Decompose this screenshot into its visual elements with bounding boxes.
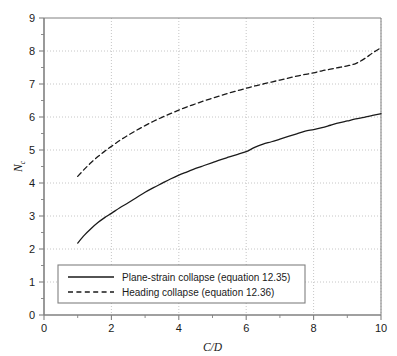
xtick-label: 0: [41, 322, 47, 334]
ytick-label: 6: [29, 111, 35, 123]
ytick-label: 1: [29, 276, 35, 288]
chart-legend: Plane-strain collapse (equation 12.35)He…: [58, 265, 305, 303]
xaxis-title: C/D: [203, 341, 223, 353]
ytick-label: 8: [29, 45, 35, 57]
ytick-label: 9: [29, 12, 35, 24]
ytick-label: 5: [29, 144, 35, 156]
xtick-label: 4: [176, 322, 182, 334]
chart-figure: 02468100123456789 C/DNc Plane-strain col…: [0, 0, 397, 356]
legend-label: Heading collapse (equation 12.36): [122, 287, 274, 298]
xtick-label: 8: [311, 322, 317, 334]
tunnel-stability-chart: 02468100123456789 C/DNc Plane-strain col…: [0, 0, 397, 356]
xtick-label: 6: [243, 322, 249, 334]
legend-label: Plane-strain collapse (equation 12.35): [122, 272, 290, 283]
ytick-label: 2: [29, 243, 35, 255]
ytick-label: 7: [29, 78, 35, 90]
ytick-label: 0: [29, 309, 35, 321]
ytick-label: 3: [29, 210, 35, 222]
xtick-label: 10: [375, 322, 387, 334]
xtick-label: 2: [108, 322, 114, 334]
ytick-label: 4: [29, 177, 35, 189]
